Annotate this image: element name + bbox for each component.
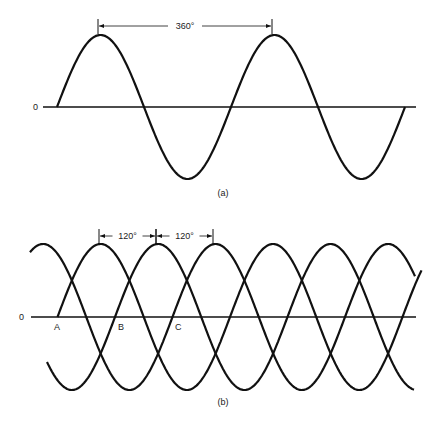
point-label-a: A: [54, 322, 60, 332]
point-label-c: C: [175, 322, 182, 332]
phase-shift-label-2: 120°: [175, 231, 194, 241]
caption-b: (b): [218, 397, 229, 407]
phase-shift-label-1: 120°: [118, 231, 137, 241]
point-label-b: B: [118, 322, 124, 332]
figure-a: 0 360° (a): [33, 19, 416, 198]
zero-label: 0: [19, 312, 24, 322]
period-label: 360°: [176, 21, 195, 31]
zero-label: 0: [33, 102, 38, 112]
phase-dimensions: [99, 229, 213, 244]
caption-a: (a): [218, 188, 229, 198]
figure-b: 0 A B C 120° 120° (b): [19, 229, 422, 407]
three-phase-waveform-figure: 0 360° (a) 0 A B C 120° 120° (b): [0, 0, 445, 424]
